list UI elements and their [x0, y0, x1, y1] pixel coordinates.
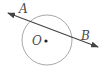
center-point — [44, 39, 47, 42]
geometry-diagram: A B O — [0, 0, 102, 75]
label-a: A — [18, 2, 28, 16]
label-b: B — [80, 29, 90, 43]
label-o: O — [32, 34, 42, 48]
